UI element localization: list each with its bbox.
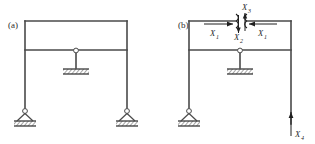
force-label-x4-base: X <box>294 129 301 139</box>
panel-a: (a) <box>8 20 138 126</box>
force-label-x4: X 4 <box>294 129 304 141</box>
panel-b: (b) <box>178 2 304 141</box>
arrow-x1-left <box>204 22 233 27</box>
panel-b-center-hinge <box>238 48 243 53</box>
arrow-x4-up <box>289 112 294 136</box>
arrow-x1-right <box>249 22 277 27</box>
panel-b-label: (b) <box>178 20 189 30</box>
force-label-x2-sub: 2 <box>240 38 243 44</box>
force-label-x3-sub: 3 <box>247 8 251 14</box>
force-label-x1-left-sub: 1 <box>216 34 219 40</box>
force-label-x1-left: X 1 <box>209 28 219 40</box>
panel-a-left-support <box>14 109 36 126</box>
force-label-x3-base: X <box>241 2 248 12</box>
force-label-x1-left-base: X <box>209 28 216 38</box>
force-label-x1-right-sub: 1 <box>264 34 267 40</box>
panel-a-right-support <box>116 109 138 126</box>
panel-a-center-support <box>63 69 89 74</box>
panel-b-center-support <box>227 69 253 74</box>
force-label-x3: X 3 <box>241 2 251 14</box>
panel-a-center-hinge <box>74 48 79 53</box>
force-label-x4-sub: 4 <box>301 135 304 141</box>
force-label-x1-right-base: X <box>257 28 264 38</box>
force-label-x1-right: X 1 <box>257 28 267 40</box>
structural-frame-figure: (a) <box>0 0 315 144</box>
force-label-x2-base: X <box>233 32 240 42</box>
force-label-x2: X 2 <box>233 32 243 44</box>
beam-cut-left-face <box>236 14 238 28</box>
panel-b-left-support <box>178 109 200 126</box>
panel-a-label: (a) <box>8 20 18 30</box>
arrow-x2-down <box>236 15 240 33</box>
